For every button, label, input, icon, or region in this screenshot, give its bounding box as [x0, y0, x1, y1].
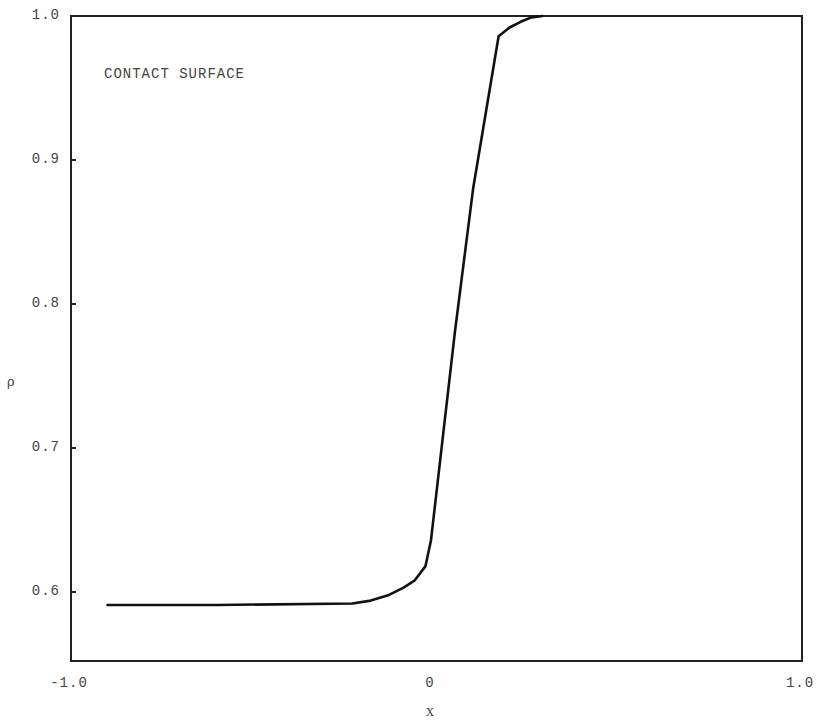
plot-frame	[71, 16, 802, 661]
density-curve	[108, 16, 543, 605]
x-tick-label: 1.0	[770, 675, 820, 691]
y-tick-label: 0.8	[0, 295, 60, 311]
y-axis-label: ρ	[7, 374, 16, 389]
y-tick-label: 1.0	[0, 7, 60, 23]
y-tick-label: 0.7	[0, 439, 60, 455]
x-tick-label: -1.0	[39, 675, 99, 691]
x-axis-label: x	[426, 702, 435, 720]
x-tick-label: 0	[400, 675, 460, 691]
contact-surface-annotation: CONTACT SURFACE	[104, 66, 245, 82]
plot-area	[0, 0, 820, 723]
y-tick-label: 0.9	[0, 151, 60, 167]
y-tick-label: 0.6	[0, 583, 60, 599]
